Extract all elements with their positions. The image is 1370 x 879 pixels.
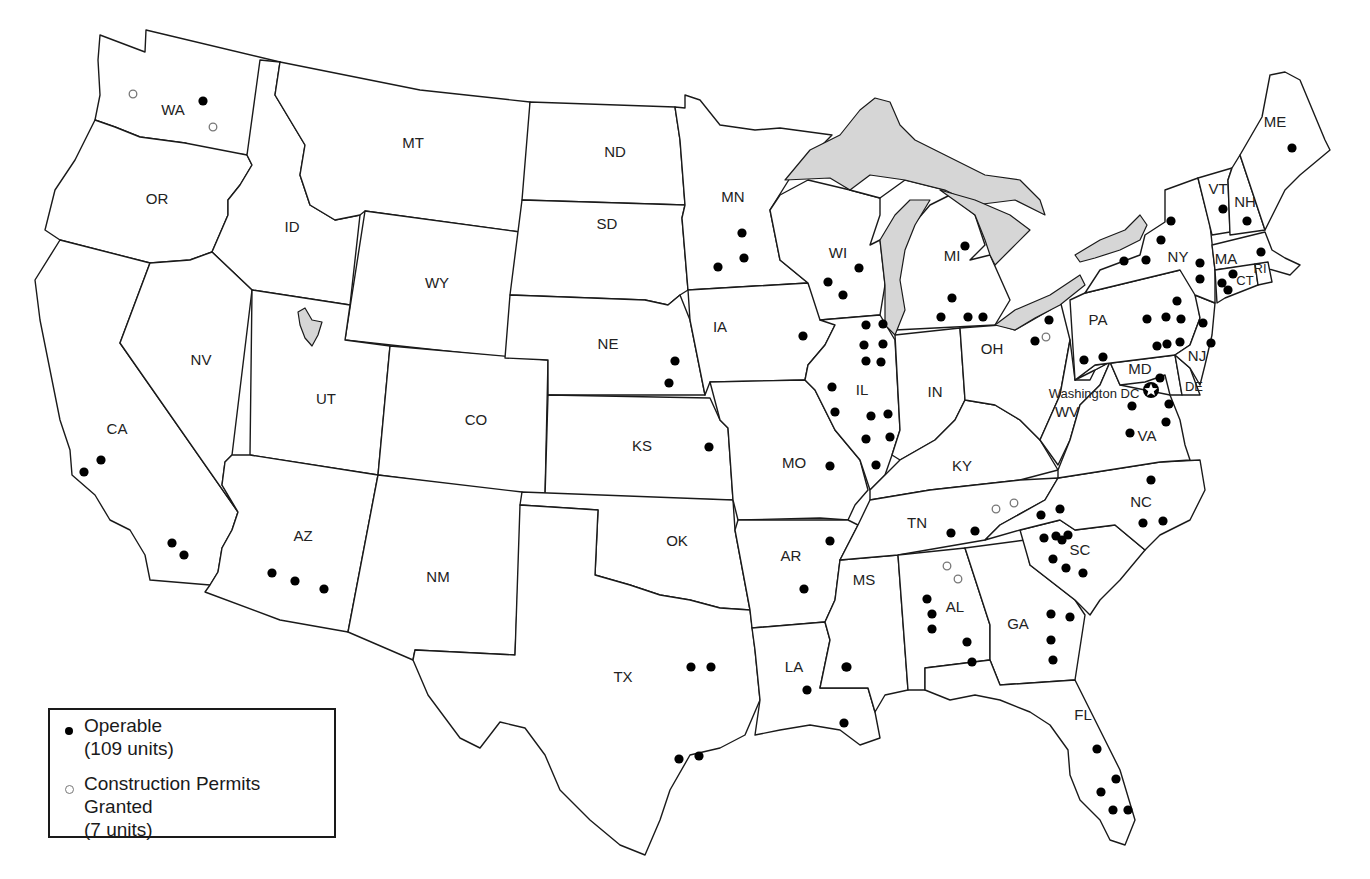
state-label-ri: RI bbox=[1254, 261, 1267, 276]
state-label-pa: PA bbox=[1089, 311, 1108, 328]
operable-plant-dot-pa bbox=[1175, 337, 1184, 346]
operable-plant-dot-il bbox=[885, 432, 894, 441]
construction-permit-dot-tn bbox=[992, 505, 1000, 513]
operable-plant-dot-fl bbox=[1108, 805, 1117, 814]
state-label-va: VA bbox=[1138, 427, 1157, 444]
operable-plant-dot-mn bbox=[739, 253, 748, 262]
construction-permit-dot-tn bbox=[1010, 499, 1018, 507]
operable-plant-dot-ma bbox=[1256, 247, 1265, 256]
operable-plant-dot-nc bbox=[1158, 516, 1167, 525]
operable-plant-dot-pa bbox=[1142, 314, 1151, 323]
operable-plant-dot-mi bbox=[963, 312, 972, 321]
operable-plant-dot-ny bbox=[1195, 274, 1204, 283]
operable-plant-dot-az bbox=[319, 584, 328, 593]
operable-plant-dot-nj bbox=[1198, 318, 1207, 327]
operable-plant-dot-va bbox=[1161, 417, 1170, 426]
state-label-sd: SD bbox=[597, 215, 618, 232]
operable-plant-dot-ar bbox=[799, 584, 808, 593]
operable-plant-dot-ar bbox=[825, 536, 834, 545]
operable-plant-dot-sc bbox=[1048, 554, 1057, 563]
operable-plant-dot-ms bbox=[841, 662, 850, 671]
operable-plant-dot-az bbox=[267, 568, 276, 577]
operable-plant-dot-il bbox=[861, 356, 870, 365]
state-label-nv: NV bbox=[191, 351, 212, 368]
operable-plant-dot-fl bbox=[1111, 774, 1120, 783]
state-label-wy: WY bbox=[425, 274, 449, 291]
operable-plant-dot-pa bbox=[1079, 355, 1088, 364]
state-label-ny: NY bbox=[1168, 248, 1189, 265]
operable-plant-dot-al bbox=[962, 637, 971, 646]
operable-plant-dot-oh bbox=[1030, 336, 1039, 345]
operable-plant-dot-ca bbox=[179, 550, 188, 559]
operable-plant-dot-wa bbox=[198, 96, 207, 105]
operable-plant-dot-pa bbox=[1161, 312, 1170, 321]
construction-permit-dot-wa bbox=[209, 123, 217, 131]
state-label-ct: CT bbox=[1236, 273, 1253, 288]
operable-plant-dot-tx bbox=[694, 751, 703, 760]
operable-plant-dot-nj bbox=[1206, 338, 1215, 347]
state-AZ bbox=[205, 455, 378, 632]
operable-plant-dot-ca bbox=[167, 538, 176, 547]
hollow-dot-icon bbox=[62, 782, 76, 796]
state-label-mi: MI bbox=[944, 247, 961, 264]
operable-plant-dot-tn bbox=[946, 528, 955, 537]
operable-plant-dot-pa bbox=[1172, 296, 1181, 305]
state-label-nh: NH bbox=[1234, 193, 1256, 210]
operable-plant-dot-me bbox=[1287, 143, 1296, 152]
state-label-oh: OH bbox=[981, 340, 1004, 357]
legend-item-operable: Operable (109 units) bbox=[62, 714, 174, 760]
state-label-ma: MA bbox=[1215, 250, 1238, 267]
operable-plant-dot-il bbox=[859, 340, 868, 349]
state-label-md: MD bbox=[1128, 360, 1151, 377]
state-label-wi: WI bbox=[829, 244, 847, 261]
state-label-ia: IA bbox=[713, 318, 727, 335]
state-label-ky: KY bbox=[952, 457, 972, 474]
operable-plant-dot-il bbox=[861, 320, 870, 329]
state-label-al: AL bbox=[946, 598, 964, 615]
operable-plant-dot-la bbox=[839, 718, 848, 727]
operable-plant-dot-sc bbox=[1078, 568, 1087, 577]
state-label-vt: VT bbox=[1208, 180, 1227, 197]
operable-plant-dot-ga bbox=[1046, 609, 1055, 618]
state-label-in: IN bbox=[928, 383, 943, 400]
operable-plant-dot-ct bbox=[1228, 269, 1237, 278]
operable-plant-dot-nc bbox=[1036, 510, 1045, 519]
operable-plant-dot-ny bbox=[1156, 235, 1165, 244]
state-label-or: OR bbox=[146, 190, 169, 207]
operable-plant-dot-fl bbox=[1092, 744, 1101, 753]
operable-plant-dot-fl bbox=[1123, 805, 1132, 814]
operable-plant-dot-al bbox=[922, 594, 931, 603]
construction-permit-dot-oh bbox=[1042, 333, 1050, 341]
operable-plant-dot-wi bbox=[838, 290, 847, 299]
state-label-ar: AR bbox=[781, 547, 802, 564]
operable-plant-dot-al bbox=[967, 657, 976, 666]
construction-permit-dot-wa bbox=[129, 90, 137, 98]
operable-plant-dot-ny bbox=[1195, 258, 1204, 267]
operable-plant-dot-ga bbox=[1046, 635, 1055, 644]
operable-plant-dot-mi bbox=[960, 241, 969, 250]
operable-plant-dot-md bbox=[1155, 373, 1164, 382]
state-label-ga: GA bbox=[1007, 615, 1029, 632]
state-label-ms: MS bbox=[853, 571, 876, 588]
operable-plant-dot-fl bbox=[1096, 787, 1105, 796]
operable-plant-dot-il bbox=[866, 411, 875, 420]
operable-plant-dot-sc bbox=[1061, 563, 1070, 572]
operable-plant-dot-il bbox=[883, 409, 892, 418]
operable-plant-dot-tx bbox=[686, 662, 695, 671]
state-label-wa: WA bbox=[161, 101, 185, 118]
operable-plant-dot-ga bbox=[1065, 612, 1074, 621]
operable-plant-dot-ks bbox=[704, 442, 713, 451]
operable-plant-dot-tn bbox=[970, 526, 979, 535]
operable-plant-dot-il bbox=[861, 434, 870, 443]
filled-dot-icon bbox=[62, 724, 76, 738]
state-label-la: LA bbox=[785, 658, 803, 675]
operable-plant-dot-sc bbox=[1039, 533, 1048, 542]
operable-plant-dot-pa bbox=[1098, 352, 1107, 361]
operable-plant-dot-ga bbox=[1048, 655, 1057, 664]
operable-plant-dot-tx bbox=[674, 754, 683, 763]
operable-plant-dot-nc bbox=[1138, 518, 1147, 527]
operable-plant-dot-ca bbox=[96, 455, 105, 464]
operable-plant-dot-ny bbox=[1119, 256, 1128, 265]
construction-permit-dot-al bbox=[954, 575, 962, 583]
state-label-mn: MN bbox=[721, 188, 744, 205]
